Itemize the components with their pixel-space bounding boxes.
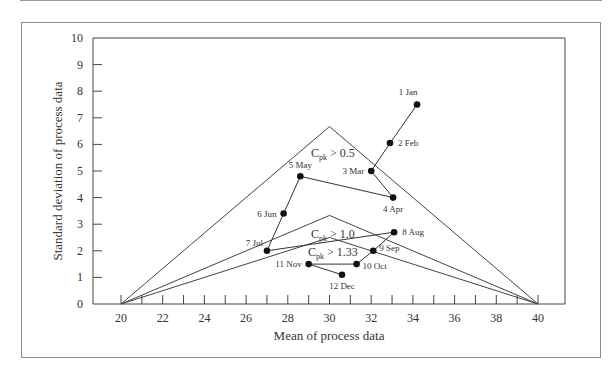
data-point-marker xyxy=(339,271,346,278)
y-tick-label: 8 xyxy=(77,84,83,98)
y-tick-label: 0 xyxy=(77,297,83,311)
data-point-label: 8 Aug xyxy=(402,227,424,237)
data-point-label: 6 Jun xyxy=(257,209,277,219)
x-tick-label: 24 xyxy=(198,311,210,325)
data-point-marker xyxy=(370,248,377,255)
data-point-label: 7 Jul xyxy=(246,238,264,248)
data-point-marker xyxy=(297,173,304,180)
y-tick-label: 3 xyxy=(77,217,83,231)
y-tick-label: 2 xyxy=(77,244,83,258)
y-tick-label: 6 xyxy=(77,137,83,151)
data-point-marker xyxy=(390,194,397,201)
y-tick-label: 5 xyxy=(77,164,83,178)
x-tick-label: 38 xyxy=(490,311,502,325)
y-axis-title: Standard deviation of process data xyxy=(50,81,65,260)
x-tick-label: 28 xyxy=(282,311,294,325)
data-point-label: 11 Nov xyxy=(275,259,302,269)
region-label-cpk-05: Cpk > 0.5 xyxy=(311,146,355,162)
x-tick-label: 40 xyxy=(532,311,544,325)
data-point-label: 10 Oct xyxy=(363,261,388,271)
data-point-label: 4 Apr xyxy=(383,204,403,214)
data-point-label: 3 Mar xyxy=(342,166,364,176)
data-point-marker xyxy=(368,168,375,175)
y-tick-label: 10 xyxy=(71,31,83,45)
y-tick-label: 4 xyxy=(77,191,83,205)
x-tick-label: 26 xyxy=(240,311,252,325)
x-tick-label: 30 xyxy=(324,311,336,325)
x-tick-label: 32 xyxy=(365,311,377,325)
x-tick-label: 34 xyxy=(407,311,419,325)
data-point-marker xyxy=(280,210,287,217)
axes: 0123456789102022242628303234363840 xyxy=(71,31,565,325)
region-label-cpk-10: Cpk > 1.0 xyxy=(311,227,355,243)
data-point-label: 2 Feb xyxy=(398,138,419,148)
x-tick-label: 22 xyxy=(157,311,169,325)
data-point-marker xyxy=(353,261,360,268)
data-point-marker xyxy=(387,140,394,147)
data-point-marker xyxy=(264,248,271,255)
x-tick-label: 20 xyxy=(115,311,127,325)
cpk-chart: 0123456789102022242628303234363840 1 Jan… xyxy=(0,0,612,380)
data-point-label: 1 Jan xyxy=(399,87,418,97)
x-tick-label: 36 xyxy=(449,311,461,325)
y-tick-label: 9 xyxy=(77,58,83,72)
data-point-label: 12 Dec xyxy=(329,281,355,291)
data-point-marker xyxy=(414,101,421,108)
data-point-label: 5 May xyxy=(289,160,313,170)
region-label-cpk-133: Cpk > 1.33 xyxy=(308,245,358,261)
y-tick-label: 7 xyxy=(77,111,83,125)
data-point-label: 9 Sep xyxy=(379,243,400,253)
x-axis-title: Mean of process data xyxy=(274,328,385,343)
data-point-marker xyxy=(305,261,312,268)
data-series: 1 Jan2 Feb3 Mar4 Apr5 May6 Jun7 Jul8 Aug… xyxy=(246,87,425,291)
y-tick-label: 1 xyxy=(77,270,83,284)
data-point-marker xyxy=(391,229,398,236)
